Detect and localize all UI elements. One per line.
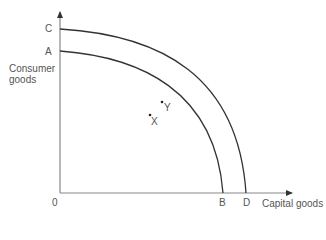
outer-ppf-curve [60,29,246,193]
x-axis-label: Capital goods [262,198,323,209]
point-c-label: C [45,23,52,34]
point-x-label: X [151,116,158,127]
point-d-label: D [243,197,250,208]
point-b-label: B [219,197,226,208]
point-a-label: A [45,46,52,57]
y-axis-label-line2: goods [9,74,36,85]
point-y-label: Y [164,102,171,113]
y-axis-label-line1: Consumer [9,63,55,74]
inner-ppf-curve [60,51,223,193]
point-y-dot [161,101,164,104]
origin-label: 0 [52,197,58,208]
